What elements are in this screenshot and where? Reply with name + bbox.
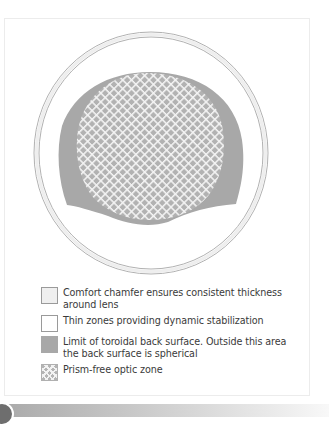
legend-item-thin-zones: Thin zones providing dynamic stabilizati… <box>41 315 301 332</box>
legend-label: Comfort chamfer ensures consistent thick… <box>63 287 301 311</box>
thin-zones-swatch-icon <box>41 315 58 332</box>
section-divider-bar <box>0 404 329 417</box>
lens-diagram <box>0 0 329 280</box>
legend: Comfort chamfer ensures consistent thick… <box>41 287 301 385</box>
legend-label: Prism-free optic zone <box>63 364 163 376</box>
legend-label: Limit of toroidal back surface. Outside … <box>63 336 301 360</box>
legend-label: Thin zones providing dynamic stabilizati… <box>63 315 264 327</box>
legend-item-comfort-chamfer: Comfort chamfer ensures consistent thick… <box>41 287 301 311</box>
comfort-chamfer-swatch-icon <box>41 287 58 304</box>
legend-item-toroidal-limit: Limit of toroidal back surface. Outside … <box>41 336 301 360</box>
optic-zone-swatch-icon <box>41 364 58 381</box>
prism-free-optic-zone <box>77 73 224 220</box>
legend-item-optic-zone: Prism-free optic zone <box>41 364 301 381</box>
toroidal-limit-swatch-icon <box>41 336 58 353</box>
